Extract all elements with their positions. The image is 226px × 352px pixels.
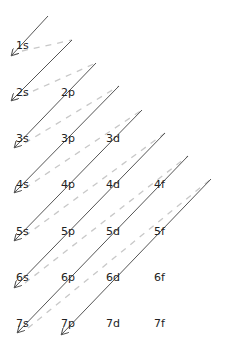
- orbital-label-4s: 4s: [16, 179, 29, 191]
- orbital-label-6d: 6d: [106, 272, 120, 284]
- orbital-label-3p: 3p: [61, 133, 75, 145]
- orbital-label-4p: 4p: [61, 179, 75, 191]
- orbital-label-7p: 7p: [61, 318, 75, 330]
- orbital-label-5p: 5p: [61, 226, 75, 238]
- dashed-connector-1: [22, 40, 72, 51]
- orbital-label-2p: 2p: [61, 87, 75, 99]
- orbital-label-7f: 7f: [154, 318, 165, 330]
- orbital-label-4d: 4d: [106, 179, 120, 191]
- arrow-lines: [12, 16, 211, 334]
- orbital-label-6f: 6f: [154, 272, 165, 284]
- orbital-label-4f: 4f: [154, 179, 165, 191]
- arrow-6: [15, 133, 165, 287]
- dashed-connector-5: [25, 133, 165, 236]
- dashed-connector-7: [28, 179, 211, 328]
- orbital-label-5f: 5f: [154, 226, 165, 238]
- aufbau-diagram: 1s2s2p3s3p3d4s4p4d4f5s5p5d5f6s6p6d6f7s7p…: [0, 0, 226, 352]
- orbital-label-7s: 7s: [16, 318, 29, 330]
- arrow-8: [62, 179, 211, 334]
- orbital-label-1s: 1s: [16, 40, 29, 52]
- diagonal-arrows: [0, 0, 226, 352]
- arrow-5: [15, 110, 142, 240]
- orbital-label-5s: 5s: [16, 226, 29, 238]
- orbital-label-3s: 3s: [16, 133, 29, 145]
- orbital-label-5d: 5d: [106, 226, 120, 238]
- orbital-label-6p: 6p: [61, 272, 75, 284]
- orbital-label-7d: 7d: [106, 318, 120, 330]
- orbital-label-6s: 6s: [16, 272, 29, 284]
- orbital-label-3d: 3d: [106, 133, 120, 145]
- orbital-label-2s: 2s: [16, 87, 29, 99]
